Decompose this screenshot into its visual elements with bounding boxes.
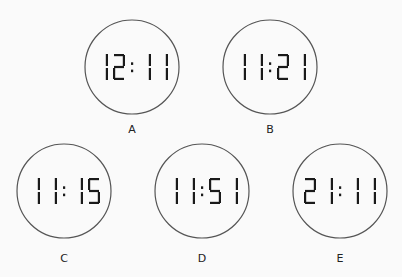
- clock-option-d: D: [155, 144, 249, 265]
- digit-segment: [81, 178, 83, 190]
- digit-segment: [210, 190, 220, 192]
- digit-segment: [244, 54, 246, 66]
- digit-segment: [123, 55, 125, 66]
- digit-segment: [331, 192, 333, 204]
- digit-segment: [193, 178, 195, 190]
- clock-face: [155, 144, 249, 238]
- digit-segment: [305, 202, 315, 204]
- digit-segment: [193, 192, 195, 204]
- digit-segment: [131, 62, 133, 65]
- option-label: B: [266, 123, 274, 136]
- clock-option-b: B: [223, 20, 317, 136]
- digit-segment: [305, 178, 315, 180]
- digit-segment: [106, 68, 108, 80]
- digit-segment: [114, 78, 124, 80]
- digit-segment: [114, 66, 124, 68]
- digit-segment: [357, 178, 359, 190]
- digit-segment: [331, 178, 333, 190]
- clock-option-a: A: [85, 20, 179, 136]
- digit-segment: [38, 192, 40, 204]
- digit-segment: [278, 66, 288, 68]
- digit-segment: [278, 78, 288, 80]
- digit-segment: [63, 186, 65, 189]
- digital-time-display: [176, 178, 238, 204]
- option-label: D: [198, 252, 206, 265]
- digit-segment: [261, 54, 263, 66]
- digit-segment: [81, 192, 83, 204]
- digit-segment: [236, 192, 238, 204]
- digit-segment: [339, 186, 341, 189]
- digit-segment: [131, 70, 133, 73]
- digit-segment: [314, 179, 316, 190]
- digit-segment: [55, 178, 57, 190]
- digit-segment: [244, 68, 246, 80]
- clock-face: [223, 20, 317, 114]
- digit-segment: [106, 54, 108, 66]
- digit-segment: [287, 55, 289, 66]
- digit-segment: [374, 192, 376, 204]
- digit-segment: [210, 202, 220, 204]
- digital-time-display: [304, 178, 376, 204]
- digit-segment: [210, 178, 220, 180]
- digit-segment: [278, 54, 288, 56]
- digit-segment: [149, 54, 151, 66]
- clock-option-e: E: [293, 144, 387, 265]
- clock-face: [85, 20, 179, 114]
- option-label: C: [60, 252, 68, 265]
- digital-time-display: [106, 54, 168, 80]
- clock-options-diagram: A B C D E: [0, 0, 402, 277]
- digit-segment: [113, 68, 115, 79]
- digit-segment: [149, 68, 151, 80]
- digit-segment: [38, 178, 40, 190]
- digit-segment: [209, 179, 211, 190]
- option-label: E: [337, 252, 344, 265]
- digit-segment: [166, 68, 168, 80]
- digit-segment: [55, 192, 57, 204]
- digit-segment: [166, 54, 168, 66]
- digit-segment: [304, 54, 306, 66]
- digit-segment: [269, 62, 271, 65]
- digit-segment: [305, 190, 315, 192]
- clock-option-c: C: [17, 144, 111, 265]
- option-label: A: [128, 123, 136, 136]
- digit-segment: [304, 192, 306, 203]
- digit-segment: [277, 68, 279, 79]
- digit-segment: [176, 192, 178, 204]
- digit-segment: [236, 178, 238, 190]
- digit-segment: [201, 186, 203, 189]
- digit-segment: [339, 194, 341, 197]
- digit-segment: [261, 68, 263, 80]
- digit-segment: [374, 178, 376, 190]
- digit-segment: [98, 192, 100, 203]
- digit-segment: [219, 192, 221, 203]
- digital-time-display: [38, 178, 100, 204]
- digit-segment: [89, 202, 99, 204]
- digit-segment: [304, 68, 306, 80]
- digit-segment: [357, 192, 359, 204]
- digit-segment: [176, 178, 178, 190]
- digit-segment: [63, 194, 65, 197]
- digit-segment: [88, 179, 90, 190]
- digit-segment: [89, 190, 99, 192]
- digital-time-display: [244, 54, 306, 80]
- digit-segment: [269, 70, 271, 73]
- digit-segment: [89, 178, 99, 180]
- digit-segment: [114, 54, 124, 56]
- digit-segment: [201, 194, 203, 197]
